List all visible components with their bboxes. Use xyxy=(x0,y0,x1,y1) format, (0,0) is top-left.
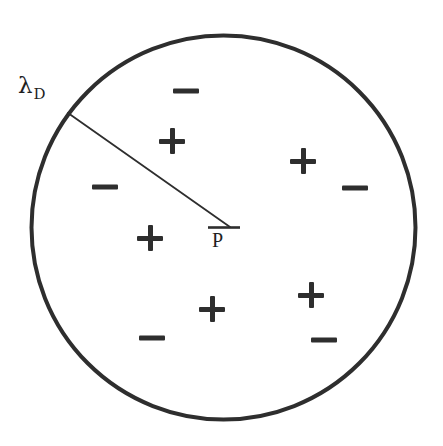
figure-canvas xyxy=(0,0,443,446)
debye-radius-line xyxy=(68,113,230,227)
point-p-label: P xyxy=(212,230,223,250)
debye-sphere-figure: λD P xyxy=(0,0,443,446)
lambda-symbol: λ xyxy=(18,72,33,98)
lambda-subscript-d: D xyxy=(34,85,46,103)
debye-length-label: λD xyxy=(18,74,46,102)
